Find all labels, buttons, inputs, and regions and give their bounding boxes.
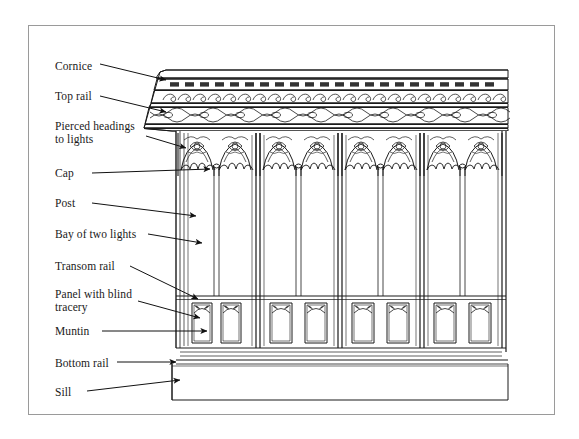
cornice bbox=[144, 70, 510, 131]
figure-root: Cornice Top rail Pierced headings to lig… bbox=[0, 0, 579, 439]
transom-rail bbox=[176, 296, 506, 300]
muntins bbox=[214, 166, 465, 296]
label-bay-of-two-lights: Bay of two lights bbox=[55, 228, 136, 241]
label-pierced-headings: Pierced headings to lights bbox=[55, 120, 135, 146]
leader-cornice bbox=[100, 64, 166, 80]
label-sill: Sill bbox=[55, 386, 71, 399]
panel-group-left bbox=[192, 303, 241, 343]
label-muntin: Muntin bbox=[55, 325, 89, 338]
label-panel-with-blind-tracery: Panel with blind tracery bbox=[55, 288, 132, 314]
label-cap: Cap bbox=[55, 167, 74, 180]
label-cornice: Cornice bbox=[55, 60, 92, 73]
leader-sill bbox=[87, 380, 180, 391]
top-rail bbox=[144, 125, 508, 132]
panel-group-3 bbox=[352, 303, 409, 343]
leader-bay bbox=[148, 234, 202, 243]
cornice-wave-band bbox=[145, 108, 510, 125]
drawing-ink bbox=[144, 70, 510, 400]
sill bbox=[172, 364, 508, 400]
cornice-dentil-band bbox=[154, 79, 508, 90]
label-top-rail: Top rail bbox=[55, 90, 92, 103]
leader-panel-blind bbox=[138, 301, 200, 318]
label-post: Post bbox=[55, 197, 75, 210]
cornice-scroll-frieze bbox=[151, 91, 508, 104]
label-transom-rail: Transom rail bbox=[55, 260, 115, 273]
bottom-rail bbox=[176, 348, 508, 364]
panel-group-2 bbox=[270, 303, 327, 343]
panel-group-4 bbox=[434, 303, 491, 343]
label-bottom-rail: Bottom rail bbox=[55, 357, 109, 370]
